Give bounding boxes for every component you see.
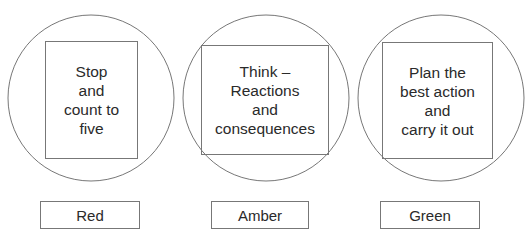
label-amber: Amber — [211, 201, 309, 229]
label-green: Green — [380, 201, 480, 229]
label-red: Red — [40, 201, 140, 229]
stage-text-red: Stop and count to five — [45, 41, 138, 159]
stage-text-amber: Think – Reactions and consequences — [201, 45, 329, 155]
stage-text-green: Plan the best action and carry it out — [382, 42, 493, 159]
